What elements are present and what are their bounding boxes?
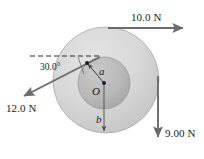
force-left-label: 12.0 N (6, 103, 37, 114)
physics-force-diagram: 10.0 N 12.0 N 9.00 N 30.0° a b O (0, 0, 204, 159)
force-right-label: 9.00 N (165, 128, 196, 139)
force-top-label: 10.0 N (131, 12, 162, 23)
center-point-dot (102, 81, 106, 85)
radius-a-label: a (99, 66, 105, 77)
radius-a-endpoint-dot (85, 61, 89, 65)
center-point-label: O (92, 86, 100, 97)
angle-label: 30.0° (40, 63, 60, 73)
radius-b-label: b (96, 114, 102, 125)
